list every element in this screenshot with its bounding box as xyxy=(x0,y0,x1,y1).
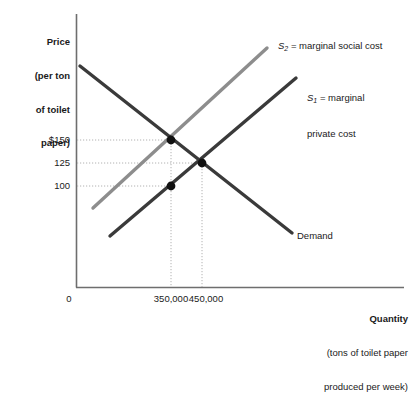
curve-label-marginal-private-cost: S1 = marginal private cost xyxy=(307,70,365,162)
y-axis-title-line-3: of toilet xyxy=(0,104,70,115)
y-tick-150: $150 xyxy=(24,134,70,145)
x-tick-0: 0 xyxy=(62,293,76,304)
curve-label-demand: Demand xyxy=(297,230,333,241)
point-private-cost-at-350k xyxy=(167,182,176,191)
s1-label-text-line2: private cost xyxy=(307,128,365,139)
y-tick-100: 100 xyxy=(24,180,70,191)
point-social-optimum xyxy=(167,136,176,145)
curve-label-marginal-social-cost: S2 = marginal social cost xyxy=(278,40,383,53)
x-axis-title: Quantity (tons of toilet paper produced … xyxy=(236,291,408,396)
y-tick-125: 125 xyxy=(24,157,70,168)
y-axis-title-line-2: (per ton xyxy=(0,70,70,81)
x-axis-title-main: Quantity xyxy=(236,313,408,324)
x-axis-title-line-2: (tons of toilet paper xyxy=(236,347,408,358)
s2-label-text: = marginal social cost xyxy=(288,40,382,51)
s1-label-text: = marginal xyxy=(317,92,364,103)
point-market-equilibrium xyxy=(198,159,207,168)
x-axis-title-line-3: produced per week) xyxy=(236,381,408,392)
x-tick-450000: 450,000 xyxy=(177,293,235,304)
curve-marginal-social-cost xyxy=(93,48,267,208)
y-axis-title-line-1: Price xyxy=(0,36,70,47)
y-axis-title: Price (per ton of toilet paper) xyxy=(0,14,70,171)
curve-demand xyxy=(80,66,292,233)
